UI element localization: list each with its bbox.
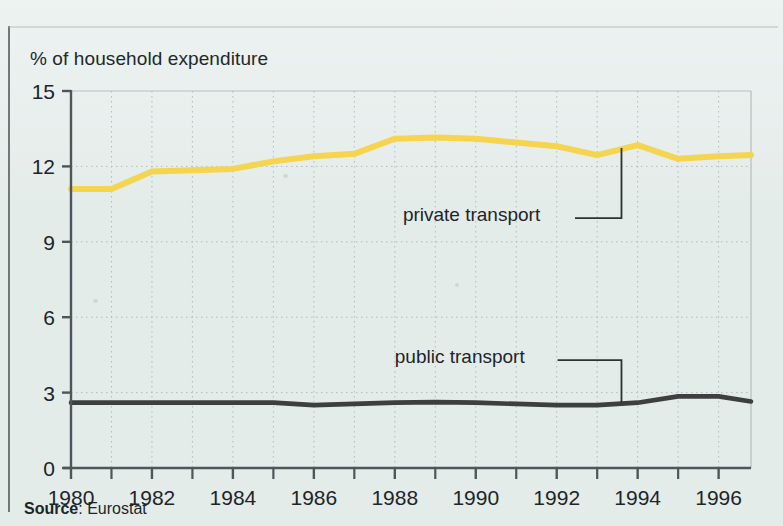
- paper-speck: [93, 299, 98, 303]
- y-axis-ticks: [62, 91, 71, 468]
- annotation-leader-line: [558, 360, 622, 403]
- chart-plot-area: 03691215 1980198219841986198819901992199…: [0, 0, 783, 526]
- y-axis-tick-labels: 03691215: [32, 80, 55, 480]
- paper-speck: [283, 174, 288, 178]
- x-tick-label: 1992: [533, 486, 580, 509]
- y-tick-label: 9: [43, 231, 55, 254]
- source-separator: :: [78, 500, 87, 517]
- series-annotations: private transportpublic transport: [395, 148, 622, 403]
- y-tick-label: 6: [43, 306, 55, 329]
- x-tick-label: 1994: [614, 486, 661, 509]
- x-tick-label: 1996: [695, 486, 742, 509]
- annotation-label: public transport: [395, 346, 526, 367]
- paper-speck: [455, 283, 459, 287]
- x-axis-ticks: [71, 468, 719, 479]
- annotation-leader-line: [575, 148, 621, 218]
- x-tick-label: 1988: [371, 486, 418, 509]
- x-tick-label: 1990: [452, 486, 499, 509]
- x-tick-label: 1984: [210, 486, 257, 509]
- y-tick-label: 3: [43, 382, 55, 405]
- source-caption: Source: Eurostat: [24, 500, 147, 518]
- series-line-private-transport: [71, 138, 751, 190]
- source-label: Source: [24, 500, 78, 517]
- y-tick-label: 12: [32, 155, 55, 178]
- x-tick-label: 1986: [290, 486, 337, 509]
- series-line-public-transport: [71, 396, 751, 405]
- line-chart: 03691215 1980198219841986198819901992199…: [0, 0, 783, 526]
- annotation-label: private transport: [403, 204, 541, 225]
- source-value: Eurostat: [87, 500, 147, 517]
- y-tick-label: 15: [32, 80, 55, 103]
- y-tick-label: 0: [43, 457, 55, 480]
- x-axis-tick-labels: 198019821984198619881990199219941996: [48, 486, 742, 509]
